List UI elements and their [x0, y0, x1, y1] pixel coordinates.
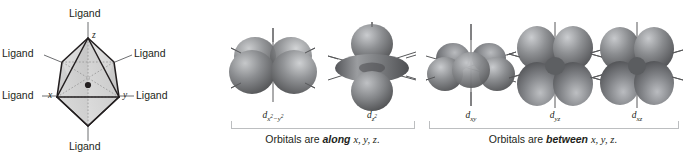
ligand-label-top: Ligand — [69, 8, 101, 19]
group-caption-t2g: Orbitals are between x, y, z. — [423, 133, 683, 145]
d-z2-orbital-shape — [324, 18, 420, 112]
metal-center-dot — [85, 82, 91, 88]
caption-prefix: Orbitals are — [265, 133, 322, 145]
axis-label-x: x — [48, 90, 52, 100]
orbitals-area: dx2−y2 — [225, 0, 683, 159]
orbital-sub-sup2: 2 — [281, 113, 284, 119]
d-x2-y2-orbital-shape — [225, 18, 321, 112]
caption-axes: x, y, z — [591, 134, 614, 145]
caption-end: . — [614, 133, 617, 145]
d-xy-orbital-shape — [423, 18, 519, 112]
orbital-cell-d-z2: dz2 — [324, 18, 420, 118]
orbital-cell-d-xy: dxy — [423, 18, 519, 118]
orbital-cell-d-x2-y2: dx2−y2 — [225, 18, 321, 118]
ligand-label-lower-left: Ligand — [2, 90, 34, 101]
axis-label-y: y — [123, 90, 127, 100]
d-xz-orbital-shape — [589, 18, 683, 112]
ligand-label-upper-left: Ligand — [2, 48, 34, 59]
octahedron-svg — [0, 0, 225, 159]
group-rule-t2g — [429, 121, 679, 129]
ligand-label-bottom: Ligand — [69, 141, 101, 152]
caption-emphasis: between — [546, 133, 588, 145]
orbital-cell-d-xz: dxz — [589, 18, 683, 118]
group-rule-eg — [231, 121, 415, 129]
caption-axes: x, y, z — [353, 134, 376, 145]
orbital-sub-sup1: 2 — [374, 113, 377, 119]
caption-emphasis: along — [323, 133, 351, 145]
chemistry-figure: Ligand Ligand Ligand Ligand Ligand Ligan… — [0, 0, 683, 159]
group-caption-eg: Orbitals are along x, y, z. — [225, 133, 420, 145]
ligand-label-lower-right: Ligand — [136, 90, 168, 101]
orbital-group-t2g: dxy — [423, 0, 683, 159]
caption-end: . — [377, 133, 380, 145]
ligand-label-upper-right: Ligand — [134, 48, 166, 59]
axis-label-z: z — [92, 30, 96, 40]
orbital-group-eg: dx2−y2 — [225, 0, 420, 159]
caption-prefix: Orbitals are — [489, 133, 546, 145]
octahedral-complex-diagram: Ligand Ligand Ligand Ligand Ligand Ligan… — [0, 0, 225, 159]
